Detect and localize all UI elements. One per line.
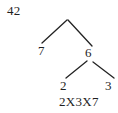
node-right-factor: 6	[85, 46, 92, 59]
branch-six-to-three	[93, 62, 114, 78]
factor-tree-diagram: 42 7 6 2 3 2X3X7	[0, 0, 118, 113]
node-leaf-three: 3	[105, 79, 112, 92]
branch-root-to-right-factor	[68, 20, 92, 46]
node-leaf-two: 2	[60, 79, 67, 92]
root-number-label: 42	[7, 4, 20, 17]
branch-six-to-two	[66, 61, 87, 78]
node-left-factor: 7	[38, 44, 45, 57]
prime-factorization-result: 2X3X7	[59, 95, 99, 109]
branch-root-to-left-factor	[42, 20, 67, 43]
